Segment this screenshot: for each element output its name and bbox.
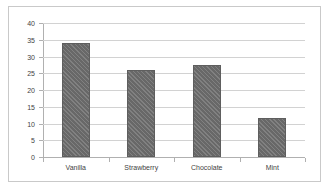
y-axis-tick-mark bbox=[39, 140, 43, 141]
y-axis-tick-label: 20 bbox=[13, 87, 35, 94]
x-axis-tick-mark bbox=[174, 158, 175, 162]
bar bbox=[62, 43, 90, 157]
x-axis-tick-mark bbox=[240, 158, 241, 162]
plot-area bbox=[43, 23, 305, 157]
bar bbox=[258, 118, 286, 157]
x-axis-tick-mark bbox=[43, 158, 44, 162]
bar bbox=[193, 65, 221, 157]
y-axis-tick-label: 35 bbox=[13, 36, 35, 43]
x-axis-tick-label: Chocolate bbox=[191, 164, 223, 171]
y-axis-tick-mark bbox=[39, 107, 43, 108]
y-axis-tick-mark bbox=[39, 23, 43, 24]
x-axis-tick-mark bbox=[109, 158, 110, 162]
bar-slot bbox=[43, 23, 109, 157]
y-axis-tick-label: 0 bbox=[13, 154, 35, 161]
y-axis-tick-label: 5 bbox=[13, 137, 35, 144]
y-axis-tick-mark bbox=[39, 40, 43, 41]
y-axis-tick-label: 30 bbox=[13, 53, 35, 60]
y-axis-tick-labels: 4035302520151050 bbox=[9, 23, 35, 157]
x-axis-tick-label: Vanilla bbox=[66, 164, 87, 171]
y-axis-tick-mark bbox=[39, 73, 43, 74]
y-axis-tick-label: 10 bbox=[13, 120, 35, 127]
y-axis-tick-mark bbox=[39, 90, 43, 91]
y-axis-tick-label: 40 bbox=[13, 20, 35, 27]
bar-slot bbox=[109, 23, 175, 157]
x-axis-tick-label: Strawberry bbox=[124, 164, 158, 171]
y-axis-tick-label: 25 bbox=[13, 70, 35, 77]
chart-frame: 4035302520151050 VanillaStrawberryChocol… bbox=[8, 6, 321, 182]
x-axis-tick-label: Mint bbox=[266, 164, 279, 171]
bar-slot bbox=[174, 23, 240, 157]
y-axis-tick-label: 15 bbox=[13, 103, 35, 110]
y-axis-tick-mark bbox=[39, 57, 43, 58]
y-axis-tick-mark bbox=[39, 124, 43, 125]
x-axis-tick-mark bbox=[305, 158, 306, 162]
bar bbox=[127, 70, 155, 157]
bar-slot bbox=[240, 23, 306, 157]
